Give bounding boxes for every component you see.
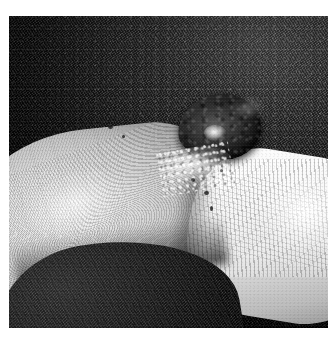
skin-speck xyxy=(220,169,223,172)
skin-speck xyxy=(204,191,209,195)
skin-speck xyxy=(89,116,92,118)
clinical-photograph xyxy=(9,16,328,328)
page-root xyxy=(0,0,336,342)
skin-speck xyxy=(122,135,125,138)
lesion-specular-highlight xyxy=(204,125,226,141)
